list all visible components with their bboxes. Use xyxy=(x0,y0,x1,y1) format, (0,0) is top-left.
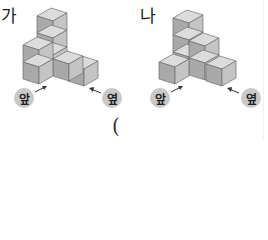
answer-open-paren: ( xyxy=(112,114,120,138)
arrow-icon-front-ga xyxy=(34,84,48,94)
front-view-badge-ga: 앞 xyxy=(14,88,34,108)
arrow-icon-side-ga xyxy=(88,86,102,96)
arrow-icon-side-na xyxy=(226,86,240,96)
arrow-icon-front-na xyxy=(170,84,184,94)
front-view-badge-na: 앞 xyxy=(150,88,170,108)
side-view-badge-ga: 옆 xyxy=(102,88,122,108)
side-view-badge-na: 옆 xyxy=(241,88,261,108)
